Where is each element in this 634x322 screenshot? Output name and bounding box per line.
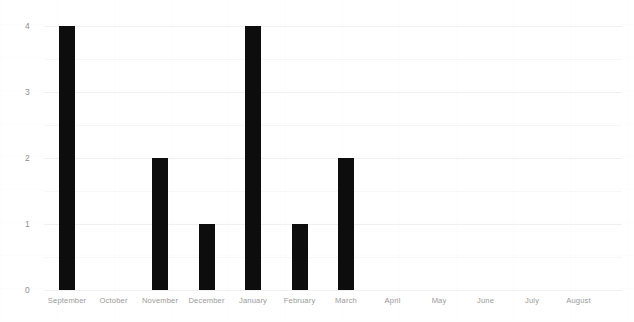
y-axis-tick-label: 2 (0, 154, 30, 163)
gridline-major (44, 92, 622, 93)
gridline-major (44, 158, 622, 159)
x-axis-tick-label: September (44, 297, 91, 305)
bar (59, 26, 75, 290)
x-axis-tick-label: January (230, 297, 277, 305)
x-axis-tick-label: May (416, 297, 463, 305)
x-axis-tick-label: June (462, 297, 509, 305)
bar (152, 158, 168, 290)
bar (199, 224, 215, 290)
plot-area (44, 26, 622, 290)
x-axis-tick-label: March (323, 297, 370, 305)
bar (338, 158, 354, 290)
x-axis-tick-label: July (509, 297, 556, 305)
x-axis-tick-label: February (276, 297, 323, 305)
y-axis-tick-label: 3 (0, 88, 30, 97)
gridline-major (44, 290, 622, 291)
bar (292, 224, 308, 290)
gridline-minor (44, 59, 622, 60)
gridline-minor (44, 191, 622, 192)
bar (245, 26, 261, 290)
gridline-minor (44, 125, 622, 126)
x-axis-tick-label: April (369, 297, 416, 305)
gridline-major (44, 26, 622, 27)
x-axis-tick-label: December (183, 297, 230, 305)
x-axis-tick-label: November (137, 297, 184, 305)
gridline-minor (44, 257, 622, 258)
y-axis-tick-label: 4 (0, 22, 30, 31)
bar-chart: 01234 SeptemberOctoberNovemberDecemberJa… (0, 0, 634, 322)
x-axis-tick-label: October (90, 297, 137, 305)
x-axis-tick-label: August (555, 297, 602, 305)
y-axis-tick-label: 0 (0, 286, 30, 295)
gridline-major (44, 224, 622, 225)
y-axis-tick-label: 1 (0, 220, 30, 229)
